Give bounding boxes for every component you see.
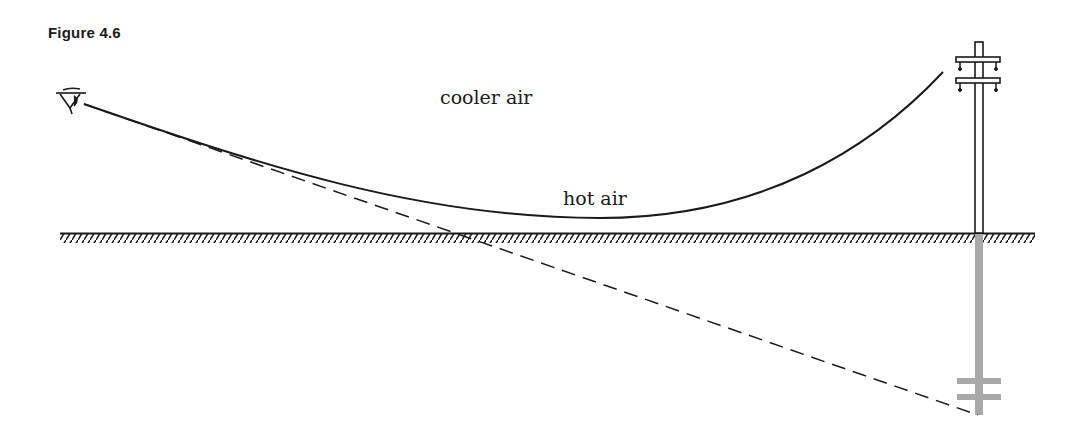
eye-icon xyxy=(56,88,86,114)
ground xyxy=(60,234,1035,244)
telephone-pole-icon xyxy=(956,42,1000,233)
figure-canvas: Figure 4.6 xyxy=(0,0,1081,445)
apparent-sight-line xyxy=(84,104,978,415)
hot-air-label: hot air xyxy=(563,187,627,209)
inverted-pole-reflection-icon xyxy=(957,234,1001,415)
cooler-air-label: cooler air xyxy=(440,86,532,108)
mirage-diagram xyxy=(0,0,1081,445)
